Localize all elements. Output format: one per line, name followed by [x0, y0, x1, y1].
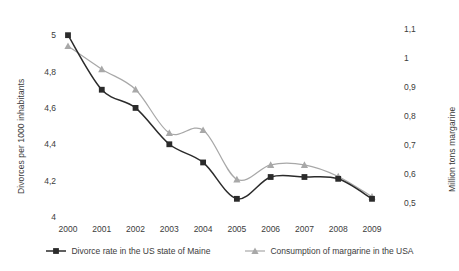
square-marker-icon	[65, 32, 71, 38]
triangle-marker-icon	[98, 66, 105, 73]
x-axis-tick-label: 2001	[85, 224, 119, 234]
x-axis-tick-label: 2009	[355, 224, 389, 234]
x-axis-tick-label: 2006	[254, 224, 288, 234]
series-2	[64, 42, 375, 199]
y-axis-right-tick-label: 1	[404, 53, 430, 63]
triangle-marker-icon	[335, 173, 342, 180]
y-axis-left-tick-label: 4,6	[30, 103, 56, 113]
y-axis-right-tick-label: 1,1	[404, 24, 430, 34]
square-marker-icon	[234, 196, 240, 202]
square-marker-icon	[335, 176, 341, 182]
triangle-marker-icon	[132, 86, 139, 93]
square-marker-icon	[54, 248, 60, 254]
x-axis-tick-label: 2003	[152, 224, 186, 234]
triangle-marker-icon	[244, 246, 266, 256]
y-axis-left-tick-label: 4,4	[30, 139, 56, 149]
y-axis-right-tick-label: 0,8	[404, 111, 430, 121]
square-marker-icon	[133, 105, 139, 111]
series-1	[65, 32, 375, 201]
legend-label: Divorce rate in the US state of Maine	[71, 246, 210, 256]
line-chart: Divorces per 1000 inhabitants Million to…	[0, 0, 459, 271]
triangle-marker-icon	[200, 126, 207, 133]
square-marker-icon	[200, 160, 206, 166]
y-axis-right-title: Million tons margarine	[447, 107, 457, 192]
y-axis-right-tick-label: 0,5	[404, 198, 430, 208]
y-axis-right-tick-label: 0,7	[404, 140, 430, 150]
x-axis-tick-label: 2005	[220, 224, 254, 234]
y-axis-left-tick-label: 5	[30, 30, 56, 40]
legend-label: Consumption of margarine in the USA	[270, 246, 413, 256]
legend-item[interactable]: Consumption of margarine in the USA	[244, 246, 413, 256]
x-axis-tick-label: 2008	[321, 224, 355, 234]
y-axis-left-tick-label: 4,8	[30, 67, 56, 77]
chart-legend: Divorce rate in the US state of MaineCon…	[0, 246, 459, 256]
square-marker-icon	[268, 174, 274, 180]
series-line	[68, 46, 372, 197]
x-axis-tick-label: 2007	[287, 224, 321, 234]
y-axis-right-tick-label: 0,9	[404, 82, 430, 92]
square-marker-icon	[45, 246, 67, 256]
legend-item[interactable]: Divorce rate in the US state of Maine	[45, 246, 210, 256]
triangle-marker-icon	[267, 161, 274, 168]
triangle-marker-icon	[368, 193, 375, 200]
square-marker-icon	[302, 174, 308, 180]
y-axis-left-tick-label: 4,2	[30, 176, 56, 186]
square-marker-icon	[99, 87, 105, 93]
triangle-marker-icon	[301, 161, 308, 168]
square-marker-icon	[369, 196, 375, 202]
triangle-marker-icon	[166, 129, 173, 136]
y-axis-right-tick-label: 0,6	[404, 169, 430, 179]
x-axis-tick-label: 2004	[186, 224, 220, 234]
y-axis-left-tick-label: 4	[30, 212, 56, 222]
series-line	[68, 35, 372, 199]
triangle-marker-icon	[64, 42, 71, 49]
x-axis-tick-label: 2002	[119, 224, 153, 234]
triangle-marker-icon	[233, 176, 240, 183]
y-axis-left-title: Divorces per 1000 inhabitants	[16, 79, 26, 194]
x-axis-tick-label: 2000	[51, 224, 85, 234]
square-marker-icon	[166, 141, 172, 147]
